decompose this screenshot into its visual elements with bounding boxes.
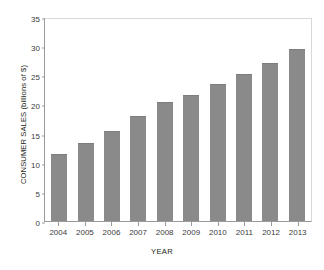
x-axis-title: YEAR xyxy=(0,247,324,256)
x-tick-mark xyxy=(165,222,166,226)
x-tick-label: 2013 xyxy=(284,228,311,237)
bar-2004[interactable] xyxy=(51,154,67,221)
y-tick-label: 5 xyxy=(36,189,40,198)
x-tick-mark xyxy=(271,222,272,226)
x-tick-mark xyxy=(85,222,86,226)
y-tick-mark xyxy=(42,106,46,107)
x-tick-slot: 2012 xyxy=(258,222,285,244)
bar-2008[interactable] xyxy=(157,102,173,221)
x-tick-label: 2011 xyxy=(231,228,258,237)
y-tick-mark xyxy=(42,164,46,165)
bar-slot xyxy=(257,19,283,221)
y-tick-mark xyxy=(42,48,46,49)
x-tick-label: 2004 xyxy=(45,228,72,237)
x-tick-slot: 2010 xyxy=(205,222,232,244)
x-tick-mark xyxy=(244,222,245,226)
bar-slot xyxy=(152,19,178,221)
bar-slot xyxy=(178,19,204,221)
bar-2012[interactable] xyxy=(262,63,278,221)
bar-slot xyxy=(72,19,98,221)
x-tick-slot: 2006 xyxy=(98,222,125,244)
chart-title: U.S. ORGANIC FOOD SALES xyxy=(3,0,119,3)
x-tick-label: 2008 xyxy=(151,228,178,237)
y-axis-title: CONSUMER SALES (billions of $) xyxy=(19,40,28,210)
bar-2009[interactable] xyxy=(183,95,199,221)
x-tick-label: 2009 xyxy=(178,228,205,237)
bar-slot xyxy=(46,19,72,221)
x-axis-ticks: 2004200520062007200820092010201120122013 xyxy=(45,222,311,244)
bar-slot xyxy=(125,19,151,221)
y-tick-mark xyxy=(42,135,46,136)
x-tick-mark xyxy=(58,222,59,226)
bar-series xyxy=(46,19,310,221)
bar-slot xyxy=(231,19,257,221)
bar-2011[interactable] xyxy=(236,74,252,221)
bar-2013[interactable] xyxy=(289,49,305,221)
x-tick-mark xyxy=(191,222,192,226)
x-tick-slot: 2008 xyxy=(151,222,178,244)
y-tick-label: 0 xyxy=(36,219,40,228)
bar-2005[interactable] xyxy=(78,143,94,221)
y-tick-label: 25 xyxy=(31,73,40,82)
x-tick-slot: 2013 xyxy=(284,222,311,244)
y-tick-label: 30 xyxy=(31,44,40,53)
x-tick-label: 2006 xyxy=(98,228,125,237)
bar-slot xyxy=(204,19,230,221)
x-tick-slot: 2009 xyxy=(178,222,205,244)
bar-slot xyxy=(99,19,125,221)
y-tick-mark xyxy=(42,77,46,78)
x-tick-mark xyxy=(138,222,139,226)
x-tick-slot: 2011 xyxy=(231,222,258,244)
x-tick-label: 2010 xyxy=(205,228,232,237)
x-tick-mark xyxy=(111,222,112,226)
bar-2010[interactable] xyxy=(210,84,226,221)
x-tick-label: 2005 xyxy=(72,228,99,237)
y-tick-mark xyxy=(42,19,46,20)
y-tick-mark xyxy=(42,193,46,194)
x-tick-label: 2012 xyxy=(258,228,285,237)
x-tick-mark xyxy=(218,222,219,226)
bar-slot xyxy=(284,19,310,221)
bar-2006[interactable] xyxy=(104,131,120,221)
y-tick-label: 15 xyxy=(31,131,40,140)
x-tick-mark xyxy=(298,222,299,226)
plot-area: 05101520253035 xyxy=(44,18,312,222)
x-tick-slot: 2007 xyxy=(125,222,152,244)
chart-figure: U.S. ORGANIC FOOD SALES CONSUMER SALES (… xyxy=(0,0,324,270)
x-tick-label: 2007 xyxy=(125,228,152,237)
x-tick-slot: 2005 xyxy=(72,222,99,244)
y-tick-label: 35 xyxy=(31,15,40,24)
y-tick-label: 20 xyxy=(31,102,40,111)
y-tick-label: 10 xyxy=(31,160,40,169)
x-tick-slot: 2004 xyxy=(45,222,72,244)
bar-2007[interactable] xyxy=(130,116,146,221)
